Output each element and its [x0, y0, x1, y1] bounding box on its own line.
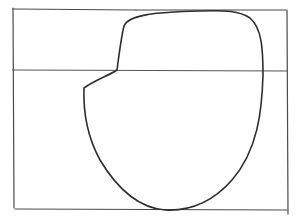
- blob-shape: [84, 11, 263, 210]
- horizontal-divider: [12, 70, 288, 71]
- frame: [13, 8, 288, 214]
- sketch-canvas: [0, 0, 300, 221]
- sketch-drawing: [0, 0, 300, 221]
